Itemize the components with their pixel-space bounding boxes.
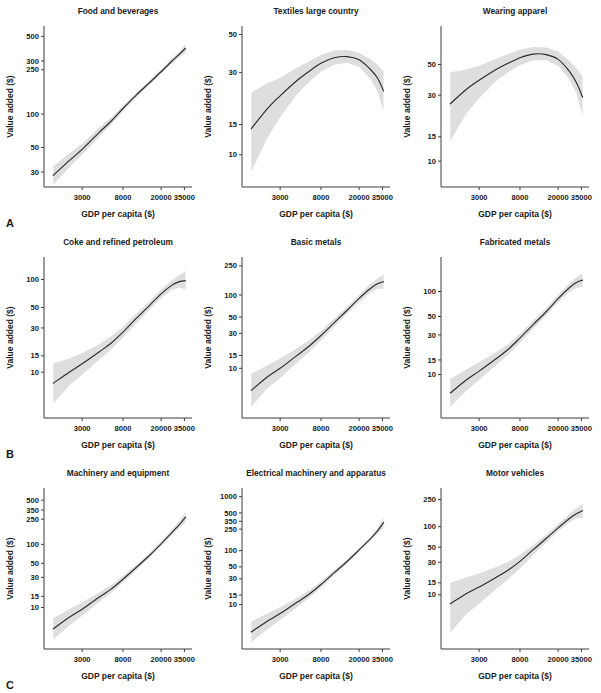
y-tick-label: 30 [229,68,237,77]
y-tick-label: 15 [229,120,238,129]
panel-basic-metals: Basic metals1015305010025030008000200003… [198,231,398,462]
chart-svg: Food and beverages3050100250300500300080… [0,0,200,231]
panel-row-c: Machinery and equipment10153050100250350… [0,462,601,693]
panel-food-and-beverages: Food and beverages3050100250300500300080… [0,0,200,231]
panel-machinery-and-equipment: Machinery and equipment10153050100250350… [0,462,200,693]
row-letter-b: B [6,448,14,460]
row-letter-a: A [6,217,14,229]
chart-svg: Fabricated metals10153050100300080002000… [397,231,597,462]
y-tick-label: 50 [229,313,237,322]
y-axis-label: Value added ($) [402,537,412,600]
y-tick-label: 100 [224,291,237,300]
y-tick-label: 300 [26,57,39,66]
row-letter-c: C [6,679,14,691]
x-axis-label: GDP per capita ($) [81,440,155,450]
y-tick-label: 350 [224,517,237,526]
y-tick-label: 30 [31,168,39,177]
y-axis-label: Value added ($) [402,306,412,369]
x-tick-label: 8000 [115,655,132,664]
y-axis-label: Value added ($) [203,306,213,369]
axis-lines [441,257,589,418]
x-tick-label: 3000 [471,424,488,433]
y-tick-label: 50 [31,143,39,152]
panel-coke-and-refined-petroleum: Coke and refined petroleum10153050100300… [0,231,200,462]
x-tick-label: 3000 [272,655,289,664]
chart-svg: Wearing apparel1015305030008000200003500… [397,0,597,231]
y-tick-label: 15 [229,591,238,600]
chart-title: Food and beverages [78,6,159,16]
x-tick-label: 20000 [151,655,172,664]
y-axis-label: Value added ($) [5,75,15,138]
y-tick-label: 10 [229,364,237,373]
y-tick-label: 350 [26,506,39,515]
y-tick-label: 30 [31,324,39,333]
y-tick-label: 10 [428,157,436,166]
x-tick-label: 35000 [372,424,393,433]
y-tick-label: 15 [31,351,40,360]
x-tick-label: 8000 [512,193,529,202]
y-tick-label: 250 [26,515,39,524]
confidence-band [53,512,185,640]
chart-title: Machinery and equipment [67,468,170,478]
panel-wearing-apparel: Wearing apparel1015305030008000200003500… [397,0,597,231]
chart-svg: Machinery and equipment10153050100250350… [0,462,200,693]
x-tick-label: 3000 [74,424,91,433]
panel-textiles-large-country: Textiles large country101530503000800020… [198,0,398,231]
y-tick-label: 10 [229,600,237,609]
figure-panel-grid: Food and beverages3050100250300500300080… [0,0,601,693]
panel-motor-vehicles: Motor vehicles10153050100250300080002000… [397,462,597,693]
y-tick-label: 50 [31,303,39,312]
x-axis-label: GDP per capita ($) [279,440,353,450]
y-tick-label: 10 [428,590,436,599]
y-tick-label: 50 [428,60,436,69]
chart-title: Textiles large country [273,6,359,16]
chart-svg: Basic metals1015305010025030008000200003… [198,231,398,462]
x-tick-label: 8000 [115,193,132,202]
x-tick-label: 20000 [151,193,172,202]
x-tick-label: 8000 [313,655,330,664]
y-tick-label: 30 [428,558,436,567]
x-tick-label: 3000 [471,193,488,202]
chart-title: Motor vehicles [486,468,544,478]
y-tick-label: 100 [26,540,39,549]
y-tick-label: 500 [26,32,39,41]
x-tick-label: 3000 [74,193,91,202]
x-tick-label: 20000 [548,193,569,202]
y-tick-label: 250 [224,261,237,270]
y-tick-label: 30 [428,331,436,340]
chart-title: Coke and refined petroleum [63,237,173,247]
y-tick-label: 50 [229,562,237,571]
panel-row-a: Food and beverages3050100250300500300080… [0,0,601,231]
x-tick-label: 3000 [471,655,488,664]
x-tick-label: 3000 [74,655,91,664]
x-tick-label: 35000 [372,193,393,202]
x-axis-label: GDP per capita ($) [279,209,353,219]
x-tick-label: 35000 [571,193,592,202]
y-tick-label: 30 [428,91,436,100]
y-tick-label: 100 [224,546,237,555]
x-tick-label: 20000 [151,424,172,433]
y-tick-label: 10 [31,603,39,612]
x-tick-label: 8000 [512,655,529,664]
x-tick-label: 20000 [349,424,370,433]
x-tick-label: 35000 [571,424,592,433]
chart-title: Basic metals [291,237,342,247]
y-tick-label: 10 [428,370,436,379]
chart-title: Electrical machinery and apparatus [246,468,386,478]
y-tick-label: 15 [428,578,437,587]
y-tick-label: 250 [26,65,39,74]
x-axis-label: GDP per capita ($) [81,209,155,219]
y-tick-label: 15 [428,356,437,365]
y-tick-label: 100 [26,110,39,119]
y-tick-label: 100 [423,287,436,296]
x-axis-label: GDP per capita ($) [478,440,552,450]
y-tick-label: 30 [229,574,237,583]
y-tick-label: 100 [423,522,436,531]
y-axis-label: Value added ($) [203,75,213,138]
chart-svg: Motor vehicles10153050100250300080002000… [397,462,597,693]
confidence-band [450,47,582,141]
x-tick-label: 3000 [272,424,289,433]
x-tick-label: 20000 [548,424,569,433]
confidence-band [251,518,383,643]
chart-title: Fabricated metals [480,237,551,247]
